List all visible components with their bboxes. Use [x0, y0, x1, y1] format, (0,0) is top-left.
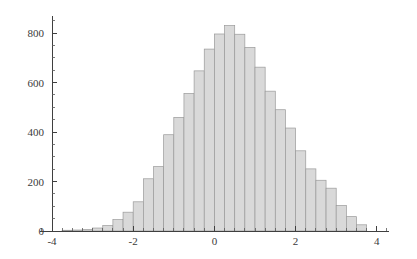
- histogram-bar: [245, 47, 255, 231]
- histogram-bar: [123, 212, 133, 231]
- histogram-bar: [275, 110, 285, 231]
- histogram-bar: [225, 26, 235, 231]
- y-tick-label: 0: [39, 225, 45, 237]
- histogram-bar: [296, 151, 306, 231]
- histogram-bar: [265, 91, 275, 231]
- histogram-bar: [113, 220, 123, 231]
- y-tick-label: 600: [28, 77, 45, 89]
- x-tick-label: 4: [374, 235, 380, 247]
- x-tick-label: -2: [129, 235, 138, 247]
- histogram-bar: [235, 34, 245, 231]
- histogram-bar: [214, 34, 224, 231]
- histogram-bar: [255, 67, 265, 231]
- histogram-bar: [306, 169, 316, 231]
- histogram-bar: [326, 188, 336, 231]
- y-tick-label: 400: [28, 126, 45, 138]
- x-tick-labels: -4-2024: [47, 235, 380, 247]
- x-tick-label: -4: [47, 235, 57, 247]
- histogram-figure: -4-2024 0200400600800: [0, 0, 417, 259]
- histogram-bar: [316, 180, 326, 231]
- histogram-bar: [133, 202, 143, 231]
- histogram-bar: [164, 135, 174, 231]
- histogram-bar: [174, 117, 184, 231]
- histogram-plot: -4-2024 0200400600800: [0, 0, 417, 259]
- histogram-bar: [154, 167, 164, 231]
- y-tick-label: 800: [28, 27, 45, 39]
- histogram-bar: [357, 225, 367, 231]
- histogram-bar: [336, 206, 346, 231]
- y-tick-label: 200: [28, 176, 45, 188]
- histogram-bar: [184, 93, 194, 231]
- histogram-bar: [204, 49, 214, 231]
- histogram-bar: [346, 217, 356, 231]
- x-tick-label: 0: [212, 235, 218, 247]
- histogram-bar: [285, 128, 295, 231]
- histogram-bar: [143, 179, 153, 231]
- y-axis: [52, 16, 57, 231]
- histogram-bar: [194, 71, 204, 231]
- histogram-bar: [103, 226, 113, 231]
- bars-group: [62, 26, 367, 231]
- x-tick-label: 2: [293, 235, 299, 247]
- y-tick-labels: 0200400600800: [28, 27, 45, 237]
